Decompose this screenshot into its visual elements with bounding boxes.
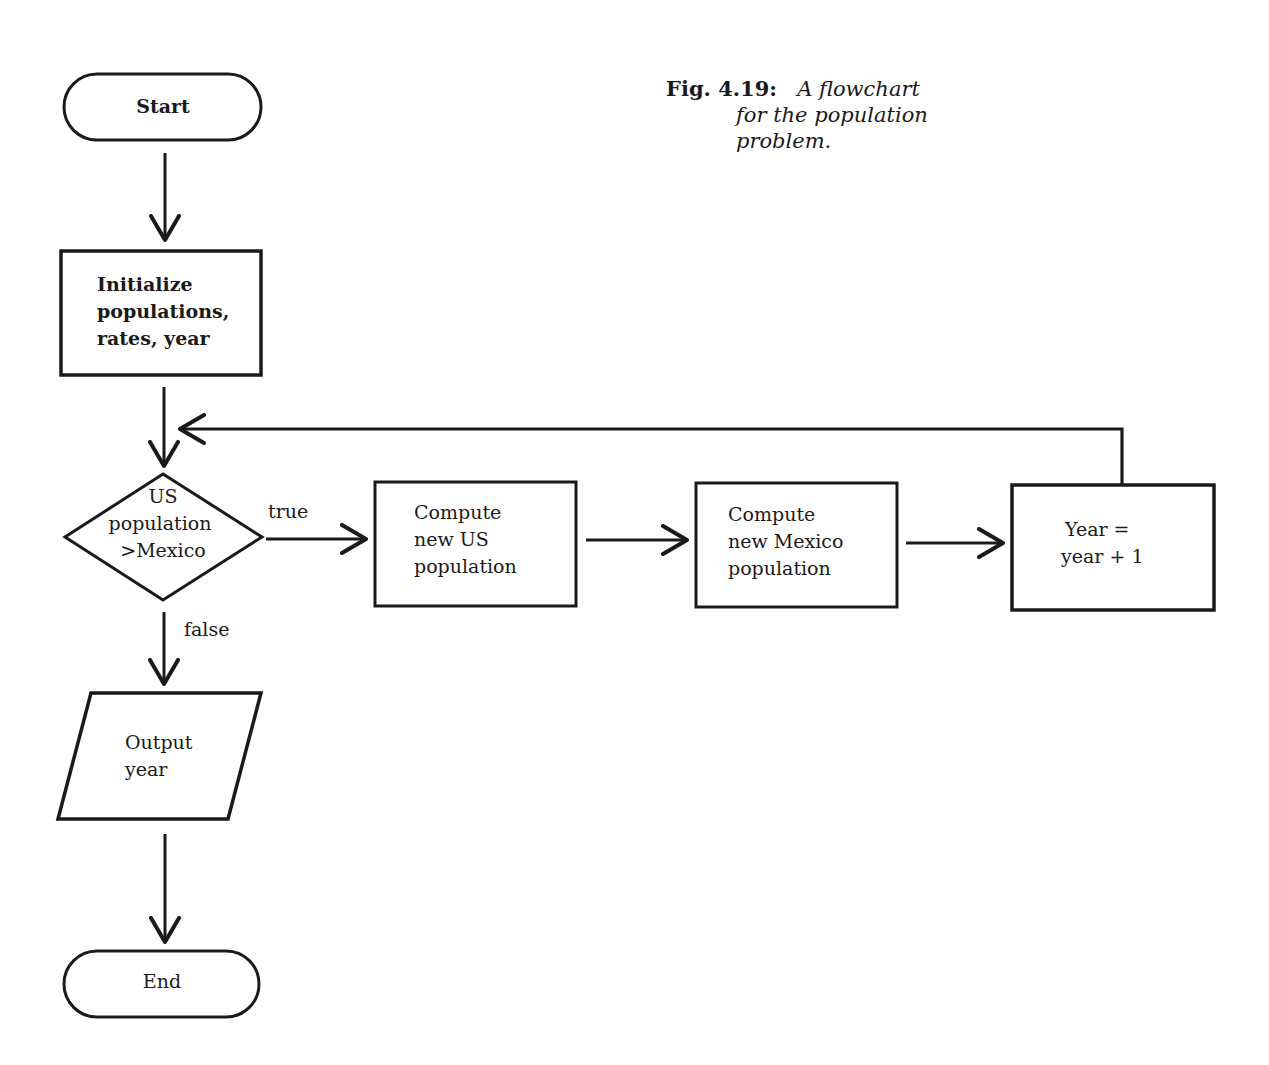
compute-mexico-box: Compute new Mexico population xyxy=(696,483,897,607)
compute-us-line-2: new US xyxy=(414,528,489,550)
compute-mexico-line-3: population xyxy=(728,557,831,579)
output-line-2: year xyxy=(124,758,168,780)
end-terminal: End xyxy=(64,951,259,1017)
true-branch-label: true xyxy=(268,500,308,522)
decision-line-1: US xyxy=(148,485,177,507)
compute-us-line-3: population xyxy=(414,555,517,577)
initialize-line-3: rates, year xyxy=(97,327,211,349)
false-branch-label: false xyxy=(184,618,229,640)
compute-us-line-1: Compute xyxy=(414,501,501,523)
start-label: Start xyxy=(136,95,190,117)
output-line-1: Output xyxy=(125,731,193,753)
compute-us-box: Compute new US population xyxy=(375,482,576,606)
start-terminal: Start xyxy=(64,74,261,140)
compute-mexico-line-1: Compute xyxy=(728,503,815,525)
loop-back-arrow xyxy=(180,429,1122,484)
output-parallelogram: Output year xyxy=(58,693,261,819)
end-label: End xyxy=(143,970,181,992)
decision-diamond: US population >Mexico xyxy=(65,474,262,600)
initialize-box: Initialize populations, rates, year xyxy=(61,251,261,375)
increment-year-box: Year = year + 1 xyxy=(1012,485,1214,610)
flowchart: Start Initialize populations, rates, yea… xyxy=(0,0,1269,1065)
initialize-line-2: populations, xyxy=(97,300,229,322)
increment-year-line-2: year + 1 xyxy=(1060,545,1143,567)
decision-line-3: >Mexico xyxy=(120,539,206,561)
compute-mexico-line-2: new Mexico xyxy=(728,530,843,552)
increment-year-line-1: Year = xyxy=(1064,518,1130,540)
initialize-line-1: Initialize xyxy=(97,273,193,295)
decision-line-2: population xyxy=(109,512,212,534)
